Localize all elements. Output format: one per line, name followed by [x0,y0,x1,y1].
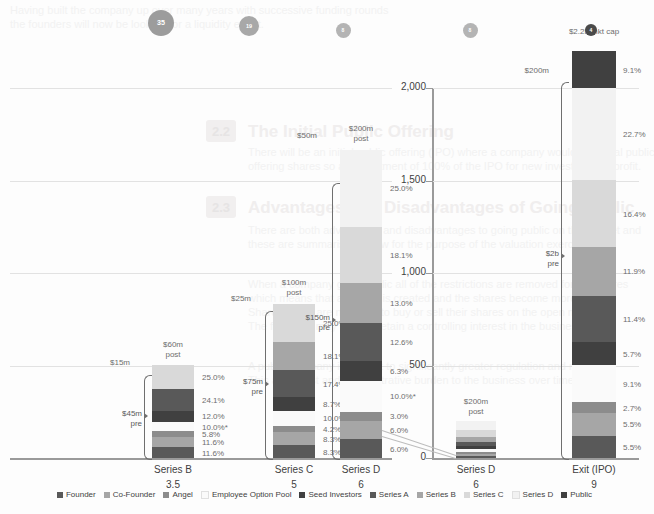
raise-label-series-c: $25m [207,294,251,303]
headcount-badge: 35 [148,10,174,36]
legend-item[interactable]: Employee Option Pool [201,490,292,499]
bar-segment-employee-option-pool [340,381,382,412]
segment-pct-label: 13.0% [390,299,413,308]
segment-pct-label: 16.4% [623,210,646,219]
legend-item[interactable]: Seed Investors [299,490,361,499]
legend-label: Seed Investors [308,490,361,499]
y-axis-tick-label: 1,500 [386,174,426,185]
legend-item[interactable]: Series A [370,490,409,499]
bar-segment-founder [572,436,616,458]
legend-label: Series D [523,490,554,499]
pre-money-label-series-b: $45m pre [96,409,142,429]
segment-pct-label: 3.0% [390,412,408,421]
bar-segment-series-c [456,430,496,437]
legend-item[interactable]: Angel [163,490,192,499]
legend-swatch-icon [417,492,423,498]
bar-right-exit-ipo- [572,51,616,458]
bar-series-b [152,366,194,459]
legend-swatch-icon [163,492,169,498]
x-axis-right [432,458,639,460]
y-tick-mark [426,273,432,274]
segment-pct-label: 22.7% [623,130,646,139]
segment-pct-label: 11.6% [202,438,224,447]
bar-segment-co-founder [572,413,616,435]
gridline-left [10,88,392,89]
legend-swatch-icon [561,492,567,498]
bar-segment-series-a [456,442,496,447]
pre-money-label-series-d: $150m pre [284,313,330,333]
y-axis-tick-label: 2,000 [386,81,426,92]
pre-money-label-series-c-arrow [265,381,269,387]
bar-segment-employee-option-pool [572,365,616,402]
raise-label-series-b: $15m [86,358,130,367]
headcount-badge: 8 [336,23,351,38]
bar-segment-series-a [572,296,616,342]
legend-label: Employee Option Pool [212,490,292,499]
bar-segment-founder [340,439,382,458]
bar-segment-seed-investors [340,361,382,380]
legend-item[interactable]: Founder [57,490,96,499]
y-tick-mark [426,181,432,182]
bar-segment-co-founder [456,454,496,456]
legend-item[interactable]: Co-Founder [104,490,156,499]
x-axis-label: Exit (IPO) 9 [540,463,648,492]
column-post-label: $200m post [318,124,404,144]
bar-right-series-d [456,421,496,458]
bar-segment-series-a [273,370,315,397]
bar-segment-founder [456,456,496,458]
segment-pct-label: 5.5% [623,443,641,452]
x-axis-label: Series B 3.5 [120,463,226,492]
x-axis-label: Series D 6 [424,463,528,492]
bar-segment-employee-option-pool [273,411,315,426]
legend-swatch-icon [201,491,209,499]
legend-label: Series A [379,490,409,499]
legend-label: Public [570,490,592,499]
y-axis-tick-label: 500 [386,359,426,370]
bar-segment-series-b [456,437,496,442]
segment-pct-label: 10.0%* [202,423,228,432]
bar-segment-series-b [340,283,382,323]
legend-item[interactable]: Series C [464,490,504,499]
y-tick-mark [426,88,432,89]
segment-pct-label: 24.1% [202,396,225,405]
headcount-badge: 8 [463,23,478,38]
bar-segment-angel [152,431,194,436]
y-tick-mark [426,366,432,367]
bar-segment-series-d [572,88,616,180]
bar-segment-series-c [340,227,382,283]
pre-money-label-series-b-arrow [144,413,148,419]
pre-money-label-exit: $2b pre [513,249,559,269]
pre-money-label-series-d-arrow [332,317,336,323]
legend-item[interactable]: Public [561,490,592,499]
legend-label: Co-Founder [113,490,156,499]
bar-segment-series-b [152,365,194,388]
bar-segment-angel [273,426,315,432]
bar-segment-co-founder [340,421,382,440]
pre-money-label-exit-arrow [561,253,565,259]
legend-item[interactable]: Series B [417,490,456,499]
gridline-left [10,181,392,182]
column-post-label-right: $200m post [430,397,522,417]
segment-pct-label: 10.0%* [390,392,416,401]
bar-segment-series-b [572,247,616,295]
bar-segment-employee-option-pool [456,449,496,453]
legend-label: Series B [426,490,456,499]
bar-segment-public [572,51,616,88]
bar-segment-angel [456,452,496,453]
legend-item[interactable]: Series D [512,490,554,499]
bar-segment-angel [340,412,382,421]
legend-label: Angel [172,490,192,499]
column-post-label: $100m post [251,278,337,298]
chart-legend: FounderCo-FounderAngelEmployee Option Po… [0,490,649,499]
y-axis-tick-label: 0 [386,451,426,462]
segment-pct-label: 5.5% [623,420,641,429]
legend-swatch-icon [464,492,470,498]
segment-pct-label: 18.1% [390,251,413,260]
segment-pct-label: 9.1% [623,380,641,389]
bar-segment-co-founder [273,432,315,445]
bar-segment-founder [152,447,194,458]
segment-pct-label: 11.6% [202,449,224,458]
raise-label-series-d: $50m [273,131,317,140]
segment-pct-label: 11.9% [623,267,645,276]
